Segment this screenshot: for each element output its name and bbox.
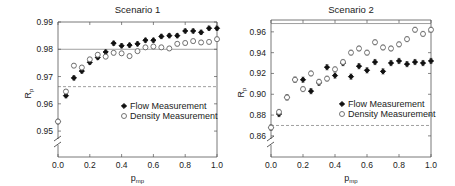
x-tick-label: 0.6 <box>147 160 159 170</box>
marker-open-circle <box>389 46 394 51</box>
data-point-density <box>119 51 124 56</box>
marker-open-circle <box>87 57 92 62</box>
legend-label-density: Density Measurement <box>348 109 436 119</box>
data-point-flow <box>214 26 219 31</box>
marker-open-circle <box>167 46 172 51</box>
legend-marker-flow <box>121 103 126 108</box>
data-point-flow <box>300 77 305 82</box>
data-point-density <box>71 63 76 68</box>
data-point-flow <box>143 38 148 43</box>
data-point-flow <box>308 89 313 94</box>
data-point-density <box>175 41 180 46</box>
data-point-density <box>293 77 298 82</box>
y-axis-label-subscript: p <box>28 88 34 92</box>
data-point-density <box>63 89 68 94</box>
x-axis-label: pmp <box>344 173 358 184</box>
y-axis-label: Rp <box>236 87 247 98</box>
data-point-density <box>87 57 92 62</box>
chart-panel-scenario-1: Scenario 1 0.990.980.970.960.95 0.00.20.… <box>23 4 223 184</box>
data-point-density <box>95 52 100 57</box>
data-point-density <box>317 79 322 84</box>
marker-open-circle <box>151 44 156 49</box>
data-point-density <box>301 86 306 91</box>
x-tick-label: 1.0 <box>425 160 437 170</box>
data-point-density <box>365 50 370 55</box>
x-tick-label: 0.4 <box>116 160 128 170</box>
legend: Flow Measurement Density Measurement <box>121 101 218 121</box>
x-tick-label: 0.0 <box>52 160 64 170</box>
x-tick-label: 0.0 <box>265 160 277 170</box>
marker-open-circle <box>349 50 354 55</box>
data-point-flow <box>396 58 401 63</box>
y-tick-label: 0.96 <box>249 27 266 37</box>
marker-open-circle <box>183 41 188 46</box>
x-ticks: 0.00.20.40.60.81.0 <box>265 20 437 170</box>
marker-open-circle <box>317 79 322 84</box>
y-tick-label: 0.88 <box>249 110 266 120</box>
marker-open-circle <box>119 51 124 56</box>
axis-break-mark <box>54 136 61 141</box>
data-point-flow <box>175 33 180 38</box>
y-tick-label: 0.99 <box>36 17 53 27</box>
axis-break-mark <box>54 142 61 147</box>
data-point-flow <box>348 74 353 79</box>
x-tick-label: 0.2 <box>297 160 309 170</box>
data-point-flow <box>388 60 393 65</box>
data-point-density <box>183 41 188 46</box>
data-point-flow <box>135 41 140 46</box>
x-tick-label: 1.0 <box>211 160 223 170</box>
marker-open-circle <box>285 95 290 100</box>
data-point-flow <box>71 75 76 80</box>
marker-open-circle <box>135 49 140 54</box>
data-point-flow <box>119 43 124 48</box>
data-point-density <box>277 109 282 114</box>
marker-open-circle <box>143 45 148 50</box>
data-point-density <box>349 50 354 55</box>
data-point-density <box>325 76 330 81</box>
data-point-flow <box>428 58 433 63</box>
marker-open-circle <box>405 37 410 42</box>
legend: Flow Measurement Density Measurement <box>339 99 436 119</box>
data-point-density <box>167 46 172 51</box>
data-point-density <box>421 31 426 36</box>
marker-open-circle <box>63 89 68 94</box>
marker-open-circle <box>215 37 220 42</box>
data-point-flow <box>380 69 385 74</box>
legend-marker-flow <box>339 101 344 106</box>
data-point-flow <box>420 60 425 65</box>
data-point-flow <box>364 68 369 73</box>
marker-open-circle <box>413 27 418 32</box>
data-point-flow <box>167 33 172 38</box>
data-point-flow <box>356 64 361 69</box>
marker-open-circle <box>191 39 196 44</box>
x-tick-label: 0.4 <box>329 160 341 170</box>
y-tick-label: 0.97 <box>36 72 53 82</box>
marker-open-circle <box>79 65 84 70</box>
data-point-flow <box>183 28 188 33</box>
chart-title: Scenario 2 <box>328 4 373 15</box>
marker-open-circle <box>301 87 306 92</box>
data-point-density <box>269 125 274 130</box>
x-tick-label: 0.6 <box>361 160 373 170</box>
marker-open-circle <box>325 76 330 81</box>
y-tick-label: 0.94 <box>249 48 266 58</box>
data-point-flow <box>127 43 132 48</box>
data-point-density <box>357 46 362 51</box>
marker-open-circle <box>293 77 298 82</box>
axis-break-mark <box>267 136 274 141</box>
marker-open-circle <box>127 54 132 59</box>
data-point-density <box>397 42 402 47</box>
data-point-density <box>191 39 196 44</box>
data-point-density <box>341 59 346 64</box>
data-point-density <box>429 27 434 32</box>
data-point-density <box>199 40 204 45</box>
data-point-density <box>381 45 386 50</box>
marker-open-circle <box>365 50 370 55</box>
x-tick-label: 0.8 <box>179 160 191 170</box>
data-point-flow <box>151 38 156 43</box>
legend-label-flow: Flow Measurement <box>348 99 425 109</box>
data-point-flow <box>199 30 204 35</box>
data-point-density <box>111 50 116 55</box>
x-tick-label: 0.2 <box>84 160 96 170</box>
data-point-density <box>215 37 220 42</box>
